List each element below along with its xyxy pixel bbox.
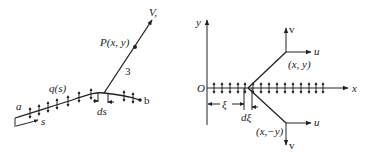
label-lower-v: v bbox=[289, 139, 295, 151]
label-lower-point: (x,−y) bbox=[256, 125, 284, 138]
label-s: s bbox=[41, 115, 45, 127]
label-velocity: V, bbox=[149, 6, 157, 18]
point-p-dot bbox=[133, 45, 137, 49]
label-y-axis: y bbox=[195, 16, 201, 28]
label-b: b bbox=[144, 94, 150, 106]
source-curve bbox=[15, 93, 140, 118]
label-dxi: dξ bbox=[241, 111, 252, 124]
label-lower-u: u bbox=[314, 116, 320, 128]
label-point-p: P(x, y) bbox=[99, 36, 130, 49]
diagram-svg: a b s q(s) ds P(x, y) 3 V, bbox=[0, 0, 374, 156]
label-upper-point: (x, y) bbox=[288, 58, 311, 71]
left-figure: a b s q(s) ds P(x, y) 3 V, bbox=[15, 6, 157, 127]
s-arrow bbox=[16, 120, 38, 126]
label-q-s: q(s) bbox=[49, 82, 66, 95]
label-upper-v: v bbox=[289, 23, 295, 35]
diagram-canvas: a b s q(s) ds P(x, y) 3 V, bbox=[0, 0, 374, 156]
label-x-axis: x bbox=[351, 82, 357, 94]
label-upper-u: u bbox=[314, 45, 320, 57]
right-figure: y x O (x, y) (x,−y) u v u v ξ dξ bbox=[195, 16, 357, 151]
ray-lower bbox=[248, 88, 286, 123]
label-ds: ds bbox=[97, 105, 107, 117]
label-origin: O bbox=[197, 82, 205, 94]
label-xi: ξ bbox=[222, 98, 227, 111]
curve-end-dot bbox=[138, 98, 142, 102]
label-a: a bbox=[16, 100, 22, 112]
ray-to-point bbox=[104, 20, 152, 93]
label-ray-3: 3 bbox=[125, 65, 131, 77]
ray-upper bbox=[248, 52, 286, 88]
